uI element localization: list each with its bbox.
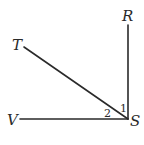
angle-diagram: R T V S 1 2 bbox=[0, 0, 144, 145]
angle-label-2: 2 bbox=[104, 107, 111, 120]
point-label-r: R bbox=[121, 7, 133, 25]
point-label-v: V bbox=[7, 111, 20, 129]
ray-st bbox=[24, 47, 128, 119]
angle-label-1: 1 bbox=[120, 102, 127, 115]
point-label-t: T bbox=[12, 36, 23, 54]
point-label-s: S bbox=[130, 112, 140, 130]
